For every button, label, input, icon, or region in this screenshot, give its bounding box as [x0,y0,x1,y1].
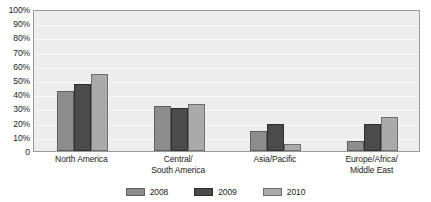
y-axis-tick-label: 60% [0,63,30,71]
legend-label: 2008 [150,188,169,197]
x-axis-category-label: Central/South America [130,154,227,175]
x-axis: North AmericaCentral/South AmericaAsia/P… [33,154,420,184]
legend-swatch-icon [194,188,213,196]
bar [250,131,267,151]
legend-item[interactable]: 2009 [194,188,237,197]
x-axis-category-label: North America [33,154,130,165]
x-axis-category-label-line1: Europe/Africa/ [345,154,397,164]
y-axis-tick-label: 50% [0,77,30,85]
bar [91,74,108,151]
bar [171,108,188,151]
bar-group [324,11,421,151]
plot-area [33,10,420,152]
bar [57,91,74,151]
legend-item[interactable]: 2008 [126,188,169,197]
x-axis-category-label-line1: Central/ [164,154,193,164]
y-axis-tick-label: 90% [0,20,30,28]
x-axis-category-label-line1: Asia/Pacific [254,154,297,164]
x-axis-category-label: Asia/Pacific [227,154,324,165]
bar [154,106,171,151]
bar [347,141,364,151]
bar [364,124,381,151]
legend-item[interactable]: 2010 [263,188,306,197]
chart-legend: 200820092010 [0,184,431,200]
bar [188,104,205,151]
y-axis-tick-label: 40% [0,91,30,99]
x-axis-category-label-line1: North America [55,154,108,164]
y-axis-tick-label: 10% [0,134,30,142]
bar [74,84,91,151]
legend-swatch-icon [126,188,145,196]
bar [381,117,398,151]
bar [267,124,284,151]
y-axis: 100%90%80%70%60%50%40%30%20%10%0 [0,10,30,152]
y-axis-tick-label: 70% [0,49,30,57]
bar-chart: 100%90%80%70%60%50%40%30%20%10%0 North A… [0,0,431,202]
y-axis-tick-label: 0 [0,148,30,156]
bars-layer [34,11,419,151]
x-axis-category-label-line2: South America [130,165,227,176]
x-axis-category-label: Europe/Africa/Middle East [323,154,420,175]
bar-group [131,11,228,151]
y-axis-tick-label: 80% [0,34,30,42]
legend-swatch-icon [263,188,282,196]
y-axis-tick-label: 100% [0,6,30,14]
bar-group [34,11,131,151]
y-axis-tick-label: 30% [0,105,30,113]
legend-label: 2010 [287,188,306,197]
bar-group [228,11,325,151]
y-axis-tick-label: 20% [0,120,30,128]
legend-label: 2009 [218,188,237,197]
bar [284,144,301,151]
x-axis-category-label-line2: Middle East [323,165,420,176]
